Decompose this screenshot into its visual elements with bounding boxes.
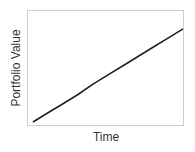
y-axis-label: Portfolio Value (9, 29, 23, 106)
plot-frame (28, 11, 184, 126)
portfolio-value-line (33, 29, 183, 122)
x-axis-label: Time (93, 130, 119, 144)
